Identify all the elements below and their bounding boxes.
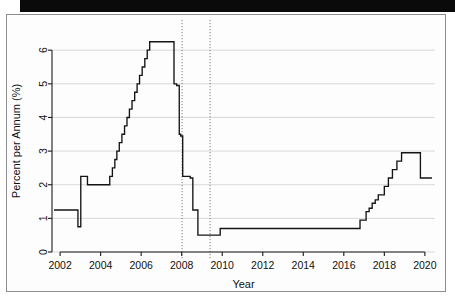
chart-figure: 0123456 20022004200620082010201220142016…	[6, 14, 446, 292]
x-tick-label: 2006	[129, 259, 153, 271]
y-tick-label: 4	[37, 114, 49, 120]
y-tick-label: 0	[37, 249, 49, 255]
policy-rate-line	[54, 42, 432, 235]
y-tick-label: 1	[37, 215, 49, 221]
x-tick-label: 2016	[332, 259, 356, 271]
x-tick-label: 2014	[292, 259, 316, 271]
scan-top-bar	[20, 0, 455, 12]
y-tick-label: 2	[37, 182, 49, 188]
y-tick-label: 3	[37, 148, 49, 154]
x-tick-label: 2010	[211, 259, 235, 271]
y-tick-label: 6	[37, 47, 49, 53]
x-tick-label: 2012	[251, 259, 275, 271]
x-tick-label: 2004	[89, 259, 113, 271]
x-tick-label: 2008	[170, 259, 194, 271]
x-axis-title: Year	[232, 278, 255, 290]
y-axis-title: Percent per Annum (%)	[10, 84, 22, 198]
line-chart-canvas: 0123456 20022004200620082010201220142016…	[6, 14, 446, 292]
gridlines	[52, 50, 435, 252]
y-tick-label: 5	[37, 81, 49, 87]
x-tick-label: 2020	[413, 259, 437, 271]
y-axis-ticks: 0123456	[37, 47, 52, 255]
x-axis-ticks: 2002200420062008201020122014201620182020	[48, 252, 436, 271]
x-tick-label: 2018	[373, 259, 397, 271]
reference-lines	[182, 20, 210, 260]
x-tick-label: 2002	[48, 259, 72, 271]
